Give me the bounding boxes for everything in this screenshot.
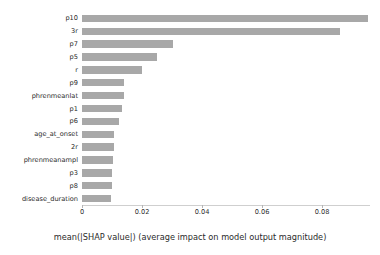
x-axis-tick-label: 0.04 [195, 209, 210, 216]
bar [82, 40, 173, 47]
bar [82, 15, 368, 22]
plot-area: p103rp7p5rp9phrenmeanlatp1p6age_at_onset… [82, 12, 370, 205]
y-axis-category-label: p8 [70, 182, 78, 189]
bar [82, 28, 340, 35]
x-axis-title: mean(|SHAP value|) (average impact on mo… [0, 232, 380, 242]
y-axis-category-label: 2r [71, 144, 78, 151]
bar [82, 182, 112, 189]
bar [82, 92, 124, 99]
y-axis-category-label: phrenmeanampl [24, 157, 78, 164]
bar [82, 66, 142, 73]
x-axis-tick-label: 0.06 [255, 209, 270, 216]
y-axis-category-label: p6 [70, 118, 78, 125]
bar [82, 143, 114, 150]
x-axis-line [82, 205, 370, 206]
bar [82, 79, 124, 86]
y-axis-category-label: disease_duration [22, 195, 78, 202]
y-axis-category-label: p7 [70, 41, 78, 48]
x-axis-tick-label: 0.08 [315, 209, 330, 216]
y-axis-category-label: age_at_onset [34, 131, 78, 138]
y-axis-category-label: p10 [65, 15, 78, 22]
y-axis-category-label: 3r [71, 28, 78, 35]
bar [82, 169, 112, 176]
bar [82, 156, 113, 163]
y-axis-category-label: p3 [70, 170, 78, 177]
x-axis-tick-label: 0 [80, 209, 84, 216]
y-axis-category-label: phrenmeanlat [32, 92, 78, 99]
shap-feature-importance-chart: p103rp7p5rp9phrenmeanlatp1p6age_at_onset… [0, 0, 380, 255]
y-axis-category-label: p5 [70, 54, 78, 61]
bar [82, 131, 114, 138]
bar [82, 118, 119, 125]
bar [82, 53, 157, 60]
y-axis-category-label: p1 [70, 105, 78, 112]
x-axis-tick-label: 0.02 [135, 209, 150, 216]
y-axis-category-label: r [75, 67, 78, 74]
bar [82, 195, 111, 202]
y-axis-category-label: p9 [70, 79, 78, 86]
bar [82, 105, 122, 112]
